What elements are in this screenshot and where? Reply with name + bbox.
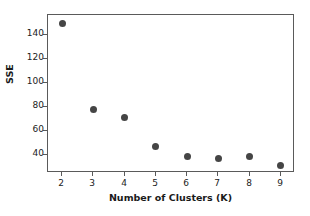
data-point [90,106,97,113]
y-axis-tick-label: 100 [4,77,44,86]
y-axis-tick-label: 40 [4,149,44,158]
data-point [184,153,191,160]
x-axis-tick-label: 2 [51,178,71,188]
x-axis-tick-label: 9 [270,178,290,188]
x-axis-tick [61,172,62,176]
x-axis-tick [280,172,281,176]
scatter-series [48,15,293,171]
x-axis-tick [186,172,187,176]
x-axis-tick [217,172,218,176]
x-axis-tick-label: 8 [239,178,259,188]
data-point [59,20,66,27]
x-axis-tick-label: 5 [145,178,165,188]
x-axis-tick-label: 3 [82,178,102,188]
x-axis-tick [124,172,125,176]
x-axis-tick [249,172,250,176]
chart-figure: SSE 406080100120140 23456789 Number of C… [0,0,310,216]
data-point [121,114,128,121]
y-axis-tick-label: 80 [4,101,44,110]
data-point [246,153,253,160]
x-axis-tick-label: 6 [176,178,196,188]
y-axis-tick-label: 120 [4,53,44,62]
x-axis-tick [92,172,93,176]
data-point [152,143,159,150]
x-axis-tick-label: 4 [114,178,134,188]
x-axis-title: Number of Clusters (K) [47,192,294,203]
x-axis-tick-label: 7 [207,178,227,188]
y-axis-tick-label: 60 [4,125,44,134]
data-point [277,162,284,169]
y-axis-tick-label: 140 [4,29,44,38]
plot-area [47,14,294,172]
x-axis-tick [155,172,156,176]
data-point [215,155,222,162]
